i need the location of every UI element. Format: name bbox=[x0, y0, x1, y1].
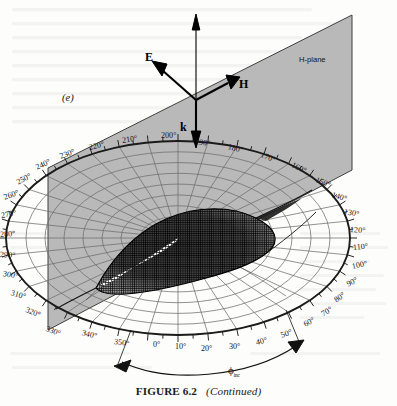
figure-caption: FIGURE 6.2(Continued) bbox=[0, 385, 397, 397]
h-plane-label: H-plane bbox=[299, 55, 326, 64]
k-vector-label: k bbox=[180, 120, 187, 135]
phi-subscript: inc bbox=[234, 372, 240, 378]
scattering-pattern-figure bbox=[0, 0, 397, 406]
figure-caption-label: FIGURE 6.2 bbox=[136, 385, 197, 397]
e-vector-arrow bbox=[152, 61, 196, 100]
e-vector-label: E bbox=[145, 50, 153, 65]
panel-letter-label: (e) bbox=[62, 92, 74, 103]
azimuth-tick-label: 20° bbox=[201, 344, 212, 353]
azimuth-tick-label: 190° bbox=[194, 137, 210, 148]
azimuth-tick-label: 120° bbox=[350, 225, 366, 235]
figure-caption-note: (Continued) bbox=[206, 385, 261, 397]
azimuth-tick-label: 0° bbox=[153, 340, 160, 349]
azimuth-tick-label: 30° bbox=[229, 342, 240, 351]
azimuth-tick-label: 280° bbox=[0, 229, 16, 239]
azimuth-tick-label: 290° bbox=[0, 250, 16, 260]
azimuth-tick-label: 10° bbox=[175, 342, 186, 351]
phi-arc-right-arrowhead bbox=[288, 340, 304, 353]
h-vector-label: H bbox=[239, 77, 248, 92]
azimuth-tick-label: 350° bbox=[113, 337, 129, 348]
vertical-axis-line bbox=[192, 14, 200, 100]
azimuth-tick-label: 110° bbox=[353, 241, 369, 252]
phi-inc-axis-label: ϕinc bbox=[228, 364, 240, 378]
azimuth-tick-label: 200° bbox=[161, 131, 176, 140]
phi-inc-arc bbox=[114, 310, 304, 375]
figure-page: (e) H-plane E H k ϕinc 0°10°20°30°40°50°… bbox=[0, 0, 397, 406]
